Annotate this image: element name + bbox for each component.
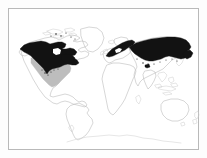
- coast-arctic-islands: [43, 28, 77, 38]
- range-central-asia-spot: [145, 64, 150, 68]
- coast-indonesia: [155, 83, 178, 95]
- coast-australia: [161, 99, 189, 121]
- map-frame: [8, 8, 199, 150]
- coast-africa: [102, 63, 136, 115]
- range-palearctic-band: [129, 37, 191, 61]
- coast-tasmania: [181, 122, 185, 126]
- coast-new-zealand: [193, 111, 199, 124]
- coast-philippines: [169, 77, 174, 83]
- range-primary-layer: [20, 32, 193, 75]
- coast-india: [143, 70, 156, 89]
- world-map: [9, 9, 200, 151]
- coast-greenland: [81, 27, 104, 52]
- coast-south-america: [66, 103, 93, 140]
- figure-container: [0, 0, 207, 158]
- coast-madagascar: [136, 95, 141, 104]
- coast-southeast-asia: [158, 72, 167, 82]
